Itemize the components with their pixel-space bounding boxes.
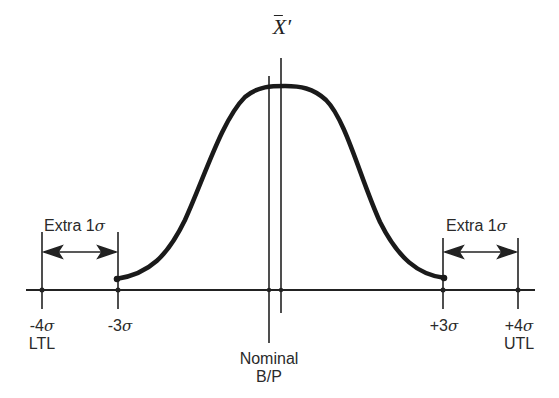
tick-label-minus-3sigma: -3σ [108,317,132,335]
nominal-label: Nominal B/P [240,350,299,386]
left-extra-arrow [44,246,116,258]
distribution-diagram [0,0,559,398]
tick-label-minus-4sigma: -4σ LTL [29,317,55,353]
mean-label: X′ [273,14,291,40]
utl-label: UTL [504,335,534,352]
right-extra-label: Extra 1σ [446,217,507,235]
ltl-label: LTL [29,335,55,352]
tick-label-plus-3sigma: +3σ [430,317,459,335]
left-extra-label: Extra 1σ [44,217,105,235]
tick-label-plus-4sigma: +4σ UTL [504,317,534,353]
right-extra-arrow [445,246,516,258]
